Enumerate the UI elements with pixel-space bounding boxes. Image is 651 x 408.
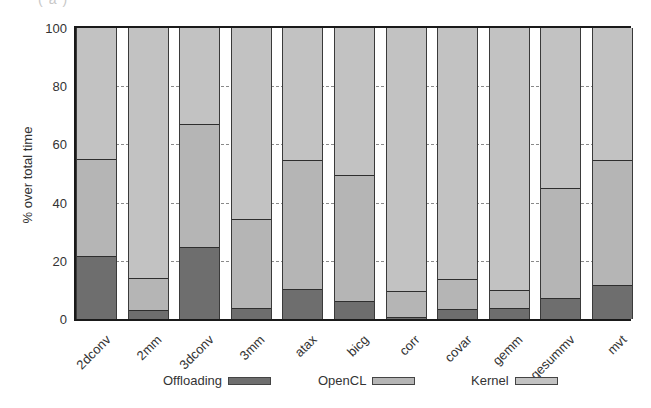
bar-corr [386,28,427,319]
bar-3mm [231,28,272,319]
bar-segment-kernel [129,28,168,279]
x-tick-label: covar [441,332,474,365]
x-tick-label: mvt [604,332,629,357]
legend-item-opencl: OpenCL [318,373,415,388]
bar-mvt [592,28,633,319]
bar-segment-kernel [77,28,116,160]
y-tick-label: 100 [45,21,67,36]
legend-swatch [372,377,415,385]
bar-segment-kernel [180,28,219,125]
bar-segment-kernel [387,28,426,292]
bar-segment-offloading [129,311,168,319]
bar-segment-offloading [283,290,322,319]
bar-segment-kernel [438,28,477,280]
legend-swatch [228,377,271,385]
bar-segment-kernel [232,28,271,220]
bar-3dconv [179,28,220,319]
x-tick-label: 3dconv [176,332,216,372]
bar-segment-opencl [438,280,477,311]
bar-segment-offloading [232,309,271,319]
bar-atax [282,28,323,319]
bar-segment-opencl [335,176,374,302]
y-tick-label: 40 [53,195,67,210]
plot-area [74,26,631,321]
bar-segment-kernel [335,28,374,176]
legend-label: Kernel [471,373,509,388]
bar-gesummv [540,28,581,319]
legend-label: Offloading [163,373,222,388]
x-tick-label: 3mm [237,332,268,363]
bar-covar [437,28,478,319]
legend-item-offloading: Offloading [163,373,271,388]
bar-segment-offloading [335,302,374,319]
y-tick-label: 60 [53,137,67,152]
bar-segment-opencl [77,160,116,257]
bar-segment-opencl [387,292,426,318]
bar-segment-kernel [593,28,632,161]
x-tick-label: gemm [490,332,526,368]
y-axis-label: % over total time [20,127,35,224]
bar-segment-opencl [129,279,168,312]
x-tick-label: corr [396,332,422,358]
x-tick-label: 2mm [134,332,165,363]
bar-segment-opencl [232,220,271,309]
bar-segment-kernel [541,28,580,189]
bar-segment-offloading [593,286,632,319]
corner-label: (a) [38,0,73,7]
x-tick-label: atax [292,332,320,360]
x-tick-label: bicg [344,332,371,359]
bar-segment-offloading [387,318,426,319]
bar-segment-opencl [490,291,529,310]
y-tick-label: 0 [60,312,67,327]
bar-bicg [334,28,375,319]
legend: OffloadingOpenCLKernel [0,373,651,393]
bar-segment-offloading [438,310,477,319]
bar-2dconv [76,28,117,319]
bar-segment-offloading [77,257,116,319]
bar-segment-kernel [283,28,322,161]
bar-segment-opencl [541,189,580,299]
bar-gemm [489,28,530,319]
y-tick-label: 20 [53,253,67,268]
legend-swatch [515,377,558,385]
x-tick-label: 2dconv [73,332,113,372]
legend-item-kernel: Kernel [471,373,558,388]
y-tick-label: 80 [53,79,67,94]
legend-label: OpenCL [318,373,366,388]
bar-segment-offloading [490,309,529,319]
bar-2mm [128,28,169,319]
bar-segment-opencl [180,125,219,248]
bar-segment-offloading [180,248,219,319]
bar-segment-opencl [283,161,322,290]
bar-segment-opencl [593,161,632,285]
bar-segment-kernel [490,28,529,290]
bar-segment-offloading [541,299,580,319]
